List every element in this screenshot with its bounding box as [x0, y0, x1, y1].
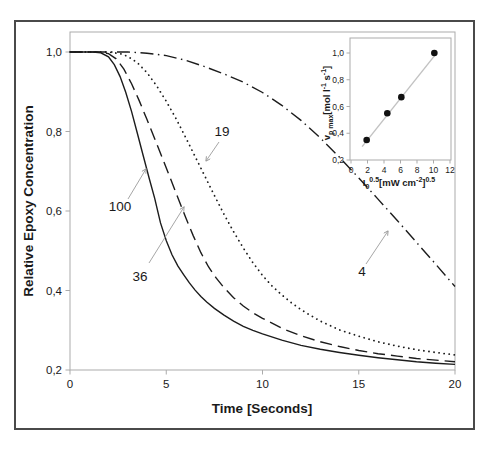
inset-x-tick-label: 4 — [382, 165, 387, 175]
inset-x-axis-title: I00.5[mW cm-2]0.5 — [363, 176, 435, 190]
axis-title-part: p max — [327, 115, 335, 135]
y-tick-label: 0,6 — [46, 205, 62, 217]
axis-title-part: [mol l — [321, 89, 332, 114]
figure-page: 1,00,80,60,40,205101520 10036194 Time [S… — [0, 0, 494, 451]
annotation-arrow-19 — [206, 142, 219, 161]
y-tick-label: 0,8 — [46, 126, 62, 138]
axis-title-part: ] — [321, 66, 332, 69]
curve-label-4: 4 — [358, 264, 366, 279]
inset-y-tick-label: 0,6 — [332, 102, 344, 112]
inset-x-tick-label: 0 — [349, 165, 354, 175]
inset-plot: 1,00,80,60,40,2024681012 I00.5[mW cm-2]0… — [320, 38, 455, 190]
inset-y-tick-label: 0,8 — [332, 75, 344, 85]
inset-data-point — [398, 94, 405, 101]
axis-title-part: 0.5 — [425, 176, 435, 183]
x-tick-label: 0 — [67, 378, 73, 390]
annotation-arrow-100 — [128, 169, 146, 199]
curve-annotations: 10036194 — [109, 124, 388, 284]
x-tick-label: 20 — [449, 378, 462, 390]
inset-x-tick-label: 8 — [415, 165, 420, 175]
x-tick-label: 5 — [163, 378, 169, 390]
axis-title-part: [mW cm — [379, 177, 416, 188]
y-tick-label: 0,2 — [46, 364, 62, 376]
inset-data-point — [431, 50, 438, 57]
curve-label-36: 36 — [132, 269, 147, 284]
inset-y-tick-label: 1,0 — [332, 48, 344, 58]
axis-title-part: s — [321, 75, 332, 83]
axis-title-part: 0.5 — [369, 176, 379, 183]
inset-y-tick-label: 0,2 — [332, 155, 344, 165]
annotation-arrow-4 — [366, 231, 388, 264]
inset-data-point — [384, 110, 391, 117]
y-tick-label: 0,4 — [46, 285, 63, 297]
x-tick-label: 10 — [256, 378, 269, 390]
x-axis-title: Time [Seconds] — [212, 401, 312, 416]
annotation-arrow-36 — [149, 207, 184, 263]
inset-x-tick-label: 2 — [365, 165, 370, 175]
y-axis-title: Relative Epoxy Concentration — [21, 105, 36, 296]
inset-y-tick-label: 0,4 — [332, 128, 344, 138]
inset-x-tick-label: 12 — [445, 165, 455, 175]
inset-data-point — [363, 137, 370, 144]
curve-label-19: 19 — [214, 124, 229, 139]
epoxy-concentration-chart: 1,00,80,60,40,205101520 10036194 Time [S… — [0, 0, 494, 451]
axis-title-part: 0 — [365, 183, 369, 190]
y-tick-label: 1,0 — [46, 46, 62, 58]
inset-x-tick-label: 6 — [398, 165, 403, 175]
curve-label-100: 100 — [109, 199, 132, 214]
x-tick-label: 15 — [352, 378, 365, 390]
inset-x-tick-label: 10 — [429, 165, 439, 175]
